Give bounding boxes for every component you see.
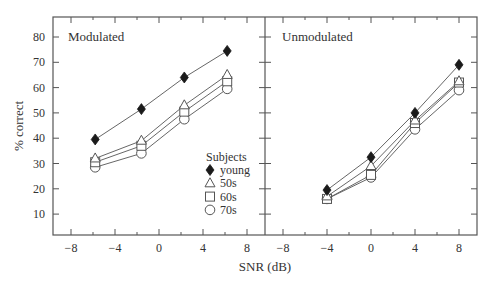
square-marker-icon	[367, 170, 376, 179]
data-series	[90, 45, 464, 203]
data-point-60s	[367, 170, 376, 179]
x-tick-label: −4	[321, 241, 334, 255]
diamond-marker-icon	[206, 165, 214, 176]
series-line-60s	[327, 83, 459, 199]
series-lines	[327, 65, 459, 199]
data-point-young	[411, 107, 419, 118]
x-tick-label: 8	[244, 241, 250, 255]
series-markers	[322, 59, 464, 203]
panel-unmodulated	[322, 59, 464, 203]
data-point-young	[180, 72, 188, 83]
diamond-marker-icon	[180, 72, 188, 83]
y-tick-label: 10	[33, 207, 45, 221]
legend-marker	[206, 165, 214, 176]
series-line-50s	[327, 81, 459, 196]
circle-marker-icon	[205, 205, 215, 215]
y-axis-label: % correct	[11, 101, 26, 152]
data-point-young	[455, 59, 463, 70]
legend-label: 50s	[220, 176, 237, 190]
series-line-50s	[95, 75, 227, 158]
y-tick-label: 20	[33, 182, 45, 196]
x-tick-label: 0	[156, 241, 162, 255]
x-tick-label: −8	[65, 241, 78, 255]
diamond-marker-icon	[137, 104, 145, 115]
data-point-young	[223, 45, 231, 56]
x-axis-label: SNR (dB)	[239, 259, 291, 274]
diamond-marker-icon	[223, 45, 231, 56]
legend-item-50s: 50s	[205, 176, 237, 190]
line-chart: −8−4048−8−40481020304050607080 Subjectsy…	[0, 0, 494, 284]
data-point-young	[91, 134, 99, 145]
y-tick-label: 80	[33, 30, 45, 44]
diamond-marker-icon	[367, 152, 375, 163]
triangle-marker-icon	[136, 135, 146, 144]
data-point-50s	[222, 69, 232, 78]
data-point-young	[137, 104, 145, 115]
data-point-50s	[179, 100, 189, 109]
x-tick-label: 4	[412, 241, 418, 255]
legend: Subjectsyoung50s60s70s	[205, 150, 250, 217]
triangle-marker-icon	[222, 69, 232, 78]
diamond-marker-icon	[91, 134, 99, 145]
y-tick-label: 30	[33, 157, 45, 171]
x-tick-label: −8	[277, 241, 290, 255]
y-tick-label: 50	[33, 106, 45, 120]
legend-item-70s: 70s	[205, 203, 237, 217]
triangle-marker-icon	[179, 100, 189, 109]
panel-title-unmodulated: Unmodulated	[282, 29, 353, 44]
triangle-marker-icon	[205, 178, 215, 187]
legend-marker	[206, 192, 215, 201]
data-point-50s	[136, 135, 146, 144]
diamond-marker-icon	[411, 107, 419, 118]
legend-label: 70s	[220, 203, 237, 217]
legend-marker	[205, 178, 215, 187]
legend-marker	[205, 205, 215, 215]
legend-label: young	[220, 163, 250, 177]
x-tick-label: −4	[109, 241, 122, 255]
legend-title: Subjects	[206, 150, 247, 164]
y-tick-label: 60	[33, 81, 45, 95]
diamond-marker-icon	[455, 59, 463, 70]
series-line-young	[327, 65, 459, 190]
axes: −8−4048−8−40481020304050607080	[33, 17, 477, 255]
legend-item-young: young	[206, 163, 250, 177]
y-tick-label: 40	[33, 131, 45, 145]
panel-title-modulated: Modulated	[68, 29, 125, 44]
x-tick-label: 4	[200, 241, 206, 255]
data-point-young	[367, 152, 375, 163]
x-tick-label: 8	[456, 241, 462, 255]
square-marker-icon	[206, 192, 215, 201]
y-tick-label: 70	[33, 55, 45, 69]
legend-label: 60s	[220, 190, 237, 204]
legend-item-60s: 60s	[206, 190, 238, 204]
chart-container: −8−4048−8−40481020304050607080 Subjectsy…	[0, 0, 494, 284]
x-tick-label: 0	[368, 241, 374, 255]
